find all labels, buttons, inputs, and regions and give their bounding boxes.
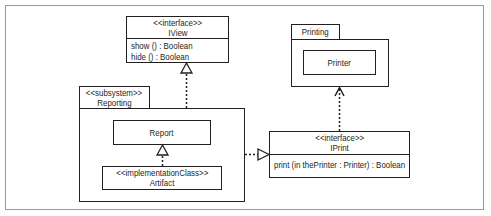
iprint-name: IPrint: [330, 143, 348, 153]
iview-operation: hide () : Boolean: [131, 52, 213, 63]
iprint-operation: print (in thePrinter : Printer) : Boolea…: [274, 160, 389, 171]
reporting-package-tab[interactable]: <<subsystem>> Reporting: [79, 86, 150, 109]
reporting-stereotype: <<subsystem>>: [86, 88, 142, 98]
printer-class[interactable]: Printer: [303, 50, 376, 75]
iview-operations: show () : Boolean hide () : Boolean: [127, 38, 228, 63]
printer-name: Printer: [328, 58, 351, 68]
artifact-stereotype: <<implementationClass>>: [116, 168, 208, 178]
report-name: Report: [150, 128, 174, 138]
printing-name: Printing: [302, 27, 329, 37]
artifact-name: Artifact: [150, 178, 175, 188]
iview-interface[interactable]: <<interface>> IView show () : Boolean hi…: [126, 16, 229, 63]
iview-stereotype: <<interface>>: [153, 18, 202, 28]
iview-name: IView: [168, 28, 187, 38]
iview-operation: show () : Boolean: [131, 41, 213, 52]
iprint-interface[interactable]: <<interface>> IPrint print (in thePrinte…: [269, 131, 410, 178]
iprint-stereotype: <<interface>>: [315, 133, 364, 143]
iprint-operations: print (in thePrinter : Printer) : Boolea…: [270, 154, 409, 178]
reporting-name: Reporting: [97, 98, 131, 108]
report-class[interactable]: Report: [113, 120, 211, 145]
printing-package-tab[interactable]: Printing: [291, 24, 340, 40]
artifact-class[interactable]: <<implementationClass>> Artifact: [102, 166, 222, 190]
